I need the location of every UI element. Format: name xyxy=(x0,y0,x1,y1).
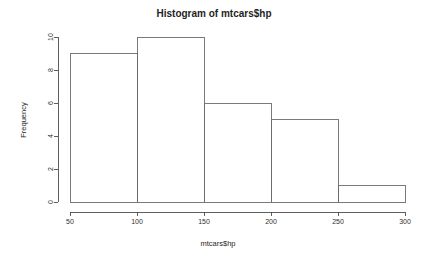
x-axis-tick-label: 100 xyxy=(131,218,143,225)
x-axis-title: mtcars$hp xyxy=(200,239,235,248)
histogram-plot-panel: Histogram of mtcars$hp 0246810 501001502… xyxy=(0,0,428,269)
x-axis-tick-label: 250 xyxy=(332,218,344,225)
y-axis-tick-label: 6 xyxy=(47,101,54,105)
chart-title: Histogram of mtcars$hp xyxy=(156,8,271,19)
y-axis-tick-label: 10 xyxy=(47,33,54,41)
chart-background xyxy=(0,0,428,269)
x-axis-tick-label: 200 xyxy=(265,218,277,225)
x-axis-tick-label: 300 xyxy=(399,218,411,225)
y-axis-tick-label: 8 xyxy=(47,68,54,72)
x-axis-tick-label: 50 xyxy=(66,218,74,225)
x-axis-tick-label: 150 xyxy=(198,218,210,225)
y-axis-tick-label: 2 xyxy=(47,167,54,171)
y-axis-tick-label: 4 xyxy=(47,134,54,138)
y-axis-tick-label: 0 xyxy=(47,200,54,204)
histogram-chart: Histogram of mtcars$hp 0246810 501001502… xyxy=(0,0,428,269)
y-axis-title: Frequency xyxy=(19,102,28,138)
